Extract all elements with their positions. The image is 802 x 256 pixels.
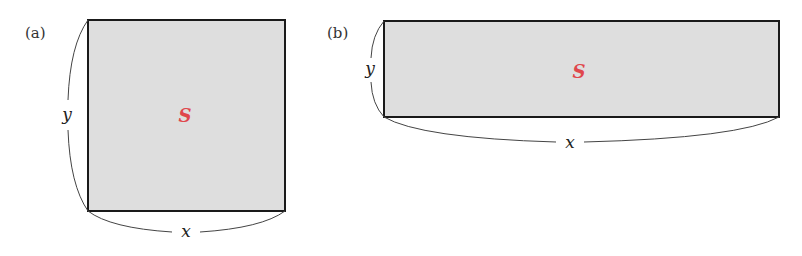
height-brace-a-top: [68, 20, 88, 100]
height-brace-a-bottom: [68, 130, 88, 211]
width-label-a: x: [181, 221, 191, 241]
width-brace-a-right: [200, 211, 285, 232]
area-label-b: S: [573, 61, 586, 82]
height-brace-b-top: [371, 21, 384, 58]
panel-a-label: (a): [25, 24, 46, 42]
figure-canvas: (a) S y x (b) S y x: [0, 0, 802, 256]
height-brace-b-bottom: [371, 82, 384, 117]
area-label-a: S: [179, 105, 192, 126]
height-label-a: y: [61, 104, 72, 124]
width-brace-b-left: [384, 117, 556, 142]
width-label-b: x: [565, 132, 575, 152]
panel-a: (a) S y x: [25, 20, 285, 241]
width-brace-b-right: [584, 117, 779, 142]
panel-b: (b) S y x: [327, 21, 779, 152]
panel-b-label: (b): [327, 24, 348, 42]
height-label-b: y: [364, 58, 375, 78]
width-brace-a-left: [88, 211, 172, 232]
